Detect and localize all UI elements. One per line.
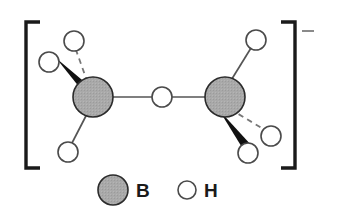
atom-hydrogen-right-outer: [261, 126, 281, 146]
legend-hydrogen-label: H: [204, 180, 218, 201]
atom-hydrogen-left-lower: [58, 142, 78, 162]
atom-hydrogen-right-upper: [246, 30, 266, 50]
atom-hydrogen-left-outer: [39, 52, 59, 72]
atom-boron-left: [73, 77, 113, 117]
legend-boron-swatch: [98, 175, 128, 205]
negative-charge-symbol: [302, 30, 314, 32]
legend-item-boron: B: [98, 175, 150, 205]
atom-hydrogen-bridging: [152, 87, 172, 107]
atom-hydrogen-right-lower: [238, 143, 258, 163]
legend-hydrogen-swatch: [178, 181, 196, 199]
atom-boron-right: [205, 77, 245, 117]
legend-boron-label: B: [136, 180, 150, 201]
figure-background: [0, 0, 339, 223]
molecular-structure-figure: B H: [0, 0, 339, 223]
atom-hydrogen-left-upper: [64, 31, 84, 51]
structure-svg: B H: [0, 0, 339, 223]
